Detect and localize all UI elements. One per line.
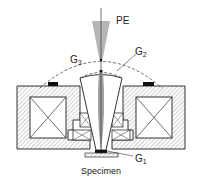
left-pole-piece	[17, 86, 91, 149]
right-pole-piece	[112, 86, 185, 149]
g1-label: G1	[135, 153, 147, 165]
diagram-canvas: PE G3 G2 G1 Specimen	[0, 0, 199, 182]
specimen-label: Specimen	[81, 166, 121, 176]
pe-label: PE	[116, 15, 130, 26]
g3-label: G3	[70, 54, 82, 66]
g2-label: G2	[135, 46, 147, 58]
right-contact-pad	[143, 82, 154, 86]
specimen-plate	[85, 153, 118, 157]
left-contact-pad	[48, 82, 58, 86]
electron-lens-diagram: PE G3 G2 G1 Specimen	[0, 0, 199, 182]
g1-grid	[95, 150, 107, 153]
